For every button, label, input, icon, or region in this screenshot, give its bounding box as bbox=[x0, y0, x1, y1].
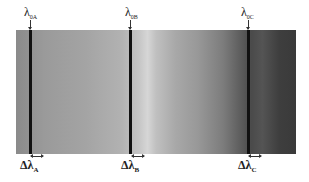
arrow-down-icon bbox=[30, 20, 31, 29]
lambda-0b-label: λ0B bbox=[125, 6, 138, 23]
delta-lambda-a-label: ΔλA bbox=[20, 158, 38, 177]
delta-lambda-c-label: ΔλC bbox=[238, 158, 256, 177]
double-arrow-icon bbox=[31, 156, 43, 157]
absorption-line-b bbox=[129, 30, 132, 154]
double-arrow-icon bbox=[132, 156, 144, 157]
absorption-line-a bbox=[29, 30, 32, 154]
arrow-down-icon bbox=[248, 20, 249, 29]
absorption-line-c bbox=[247, 30, 250, 154]
spectrum-band bbox=[16, 30, 296, 154]
delta-lambda-b-label: ΔλB bbox=[121, 158, 139, 177]
arrow-down-icon bbox=[130, 20, 131, 29]
double-arrow-icon bbox=[249, 156, 261, 157]
